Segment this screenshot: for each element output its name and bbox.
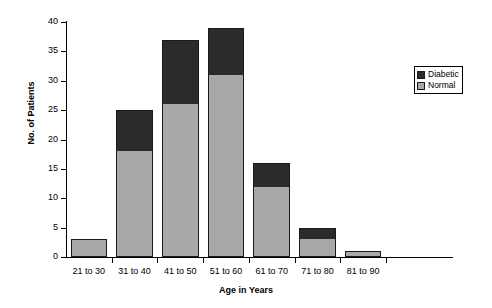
bar-segment-normal <box>162 104 199 257</box>
x-axis-tick-label: 31 to 40 <box>112 266 158 276</box>
bar-group <box>162 40 199 257</box>
x-axis-tick-label: 81 to 90 <box>340 266 386 276</box>
bar-segment-normal <box>116 151 153 257</box>
legend-item: Normal <box>417 80 459 91</box>
legend-swatch-icon <box>417 71 425 79</box>
y-axis-tick-label-text: 35 <box>32 46 58 55</box>
bar-segment-normal <box>208 75 245 257</box>
bar-segment-diabetic <box>208 28 245 75</box>
y-axis-tick-label-text: 0 <box>32 252 58 261</box>
legend-item-label: Normal <box>428 81 455 90</box>
x-axis-tick <box>157 257 158 263</box>
x-axis-tick-label: 71 to 80 <box>295 266 341 276</box>
x-axis-tick <box>340 257 341 263</box>
bar-segment-normal <box>299 239 336 257</box>
y-axis-tick-label-text: 15 <box>32 164 58 173</box>
bar-segment-diabetic <box>299 228 336 240</box>
bar-segment-diabetic <box>116 110 153 151</box>
x-axis-tick <box>249 257 250 263</box>
legend-item: Diabetic <box>417 69 459 80</box>
x-axis-tick-label: 61 to 70 <box>249 266 295 276</box>
y-axis-tick-label: 35 <box>28 46 58 55</box>
stacked-bar-chart: No. of Patients 0510152025303540 21 to 3… <box>0 0 492 308</box>
bar-segment-normal <box>345 251 382 257</box>
bar-group <box>253 163 290 257</box>
bar-segment-diabetic <box>253 163 290 187</box>
y-axis-tick-label: 40 <box>28 17 58 26</box>
y-axis-tick-label-text: 40 <box>32 17 58 26</box>
y-axis-tick-label: 5 <box>28 223 58 232</box>
chart-legend: DiabeticNormal <box>414 66 463 94</box>
y-axis-tick-label-text: 5 <box>32 223 58 232</box>
y-axis-tick-label-text: 25 <box>32 105 58 114</box>
plot-area <box>66 22 386 257</box>
x-axis-title: Age in Years <box>166 285 326 295</box>
y-axis-tick-label: 0 <box>28 252 58 261</box>
x-axis-tick <box>386 257 387 263</box>
y-axis-tick-label: 30 <box>28 76 58 85</box>
x-axis-line <box>66 257 453 258</box>
y-axis-tick <box>61 257 67 258</box>
bar-segment-normal <box>71 239 108 257</box>
x-axis-tick-label: 51 to 60 <box>203 266 249 276</box>
x-axis-tick <box>203 257 204 263</box>
bar-group <box>71 239 108 257</box>
bar-group <box>299 228 336 257</box>
bar-group <box>116 110 153 257</box>
y-axis-tick-label-text: 20 <box>32 135 58 144</box>
bar-segment-diabetic <box>162 40 199 105</box>
x-axis-tick <box>295 257 296 263</box>
x-axis-tick-label: 21 to 30 <box>66 266 112 276</box>
legend-item-label: Diabetic <box>428 70 459 79</box>
legend-swatch-icon <box>417 82 425 90</box>
y-axis-tick-label-text: 10 <box>32 193 58 202</box>
y-axis-tick-label: 25 <box>28 105 58 114</box>
x-axis-tick <box>112 257 113 263</box>
y-axis-tick-label-text: 30 <box>32 76 58 85</box>
bar-segment-normal <box>253 187 290 258</box>
bar-group <box>208 28 245 257</box>
y-axis-tick-label: 10 <box>28 193 58 202</box>
x-axis-tick-label: 41 to 50 <box>157 266 203 276</box>
y-axis-tick-label: 15 <box>28 164 58 173</box>
bar-group <box>345 251 382 257</box>
y-axis-tick-label: 20 <box>28 135 58 144</box>
